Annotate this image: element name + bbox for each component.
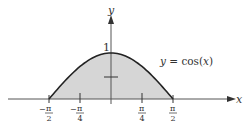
function-label-eq: = cos( bbox=[166, 55, 203, 67]
pi-numerator: π bbox=[46, 104, 51, 113]
diagram-canvas: y x 1 y = cos(x) − π 2 − π 4 π 4 π 2 bbox=[0, 0, 244, 132]
tick-label-pi-over-2: π 2 bbox=[169, 104, 177, 123]
y-axis-label: y bbox=[107, 4, 115, 17]
pi-numerator: π bbox=[170, 104, 175, 113]
minus-sign: − bbox=[70, 105, 77, 114]
tick-label-neg-pi-over-2: − π 2 bbox=[39, 104, 53, 123]
denominator: 4 bbox=[140, 114, 145, 123]
denominator: 2 bbox=[47, 114, 52, 123]
y-value-one-label: 1 bbox=[103, 41, 110, 54]
tick-label-pi-over-4: π 4 bbox=[138, 104, 146, 123]
x-axis-arrow-icon bbox=[227, 96, 236, 102]
function-label: y = cos(x) bbox=[159, 55, 213, 67]
x-axis-label: x bbox=[236, 93, 243, 106]
pi-numerator: π bbox=[77, 104, 82, 113]
denominator: 4 bbox=[78, 114, 83, 123]
cosine-area-diagram: y x 1 y = cos(x) − π 2 − π 4 π 4 π 2 bbox=[0, 0, 244, 132]
tick-label-neg-pi-over-4: − π 4 bbox=[70, 104, 84, 123]
minus-sign: − bbox=[39, 105, 46, 114]
pi-numerator: π bbox=[139, 104, 144, 113]
denominator: 2 bbox=[171, 114, 176, 123]
function-label-close: ) bbox=[209, 55, 213, 67]
